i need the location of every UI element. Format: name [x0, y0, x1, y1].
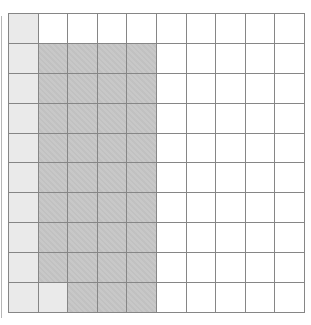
- grid-cell-r1c2: [39, 14, 69, 44]
- grid-cell-r10c4: [98, 283, 128, 313]
- grid-cell-r6c3: [68, 163, 98, 193]
- grid-cell-r5c7: [187, 134, 217, 164]
- grid-cell-r2c4: [98, 44, 128, 74]
- grid-cell-r8c9: [246, 223, 276, 253]
- grid-cell-r10c10: [275, 283, 305, 313]
- grid-cell-r7c10: [275, 193, 305, 223]
- grid-cell-r2c10: [275, 44, 305, 74]
- grid-cell-r6c7: [187, 163, 217, 193]
- grid-cell-r5c8: [216, 134, 246, 164]
- grid-cell-r8c8: [216, 223, 246, 253]
- grid-cell-r10c2: [39, 283, 69, 313]
- grid-cell-r9c9: [246, 253, 276, 283]
- hundredths-grid: [8, 13, 305, 313]
- grid-cell-r2c2: [39, 44, 69, 74]
- grid-cell-r5c4: [98, 134, 128, 164]
- grid-cell-r10c6: [157, 283, 187, 313]
- grid-cell-r5c6: [157, 134, 187, 164]
- grid-cell-r6c10: [275, 163, 305, 193]
- grid-cell-r1c7: [187, 14, 217, 44]
- grid-cell-r2c9: [246, 44, 276, 74]
- grid-cell-r4c9: [246, 104, 276, 134]
- grid-cell-r1c9: [246, 14, 276, 44]
- grid-cell-r8c2: [39, 223, 69, 253]
- grid-cell-r1c8: [216, 14, 246, 44]
- grid-cell-r9c5: [127, 253, 157, 283]
- grid-cell-r7c8: [216, 193, 246, 223]
- page-edge-artifact-line: [1, 16, 2, 318]
- grid-cell-r6c1: [9, 163, 39, 193]
- grid-cell-r8c7: [187, 223, 217, 253]
- grid-cell-r2c3: [68, 44, 98, 74]
- grid-cell-r3c6: [157, 74, 187, 104]
- grid-cell-r6c2: [39, 163, 69, 193]
- grid-cell-r8c5: [127, 223, 157, 253]
- grid-cell-r5c1: [9, 134, 39, 164]
- grid-cell-r8c1: [9, 223, 39, 253]
- grid-cell-r10c7: [187, 283, 217, 313]
- grid-cell-r1c5: [127, 14, 157, 44]
- grid-cell-r7c6: [157, 193, 187, 223]
- grid-cell-r7c4: [98, 193, 128, 223]
- grid-cell-r7c9: [246, 193, 276, 223]
- grid-cell-r5c3: [68, 134, 98, 164]
- grid-cell-r6c8: [216, 163, 246, 193]
- grid-cell-r9c10: [275, 253, 305, 283]
- grid-cell-r5c2: [39, 134, 69, 164]
- grid-cell-r4c2: [39, 104, 69, 134]
- grid-cell-r10c8: [216, 283, 246, 313]
- grid-cell-r3c3: [68, 74, 98, 104]
- grid-cell-r8c3: [68, 223, 98, 253]
- grid-cell-r1c3: [68, 14, 98, 44]
- grid-cell-r10c1: [9, 283, 39, 313]
- grid-cell-r3c2: [39, 74, 69, 104]
- grid-cell-r2c1: [9, 44, 39, 74]
- page: [0, 0, 311, 325]
- grid-cell-r8c10: [275, 223, 305, 253]
- grid-cell-r4c8: [216, 104, 246, 134]
- grid-cell-r9c7: [187, 253, 217, 283]
- grid-cell-r9c3: [68, 253, 98, 283]
- grid-cell-r4c4: [98, 104, 128, 134]
- grid-cell-r10c9: [246, 283, 276, 313]
- grid-cell-r4c6: [157, 104, 187, 134]
- grid-cell-r4c7: [187, 104, 217, 134]
- grid-cell-r7c7: [187, 193, 217, 223]
- grid-cell-r8c6: [157, 223, 187, 253]
- grid-cell-r4c1: [9, 104, 39, 134]
- grid-cell-r7c3: [68, 193, 98, 223]
- grid-cell-r6c9: [246, 163, 276, 193]
- grid-cell-r3c4: [98, 74, 128, 104]
- grid-cell-r5c9: [246, 134, 276, 164]
- grid-cell-r3c5: [127, 74, 157, 104]
- grid-cell-r3c1: [9, 74, 39, 104]
- grid-cell-r2c5: [127, 44, 157, 74]
- grid-cell-r9c6: [157, 253, 187, 283]
- grid-cell-r7c1: [9, 193, 39, 223]
- grid-cell-r6c6: [157, 163, 187, 193]
- grid-cell-r3c9: [246, 74, 276, 104]
- grid-cell-r3c7: [187, 74, 217, 104]
- grid-cell-r10c5: [127, 283, 157, 313]
- grid-cell-r3c10: [275, 74, 305, 104]
- grid-cell-r1c6: [157, 14, 187, 44]
- grid-cell-r2c6: [157, 44, 187, 74]
- grid-cell-r8c4: [98, 223, 128, 253]
- grid-cell-r1c1: [9, 14, 39, 44]
- grid-cell-r4c3: [68, 104, 98, 134]
- grid-cell-r2c8: [216, 44, 246, 74]
- grid-cell-r9c4: [98, 253, 128, 283]
- grid-cell-r7c2: [39, 193, 69, 223]
- grid-cell-r1c4: [98, 14, 128, 44]
- grid-cell-r4c10: [275, 104, 305, 134]
- grid-cell-r5c10: [275, 134, 305, 164]
- grid-cell-r9c1: [9, 253, 39, 283]
- grid-cell-r9c8: [216, 253, 246, 283]
- grid-cell-r2c7: [187, 44, 217, 74]
- grid-cell-r6c5: [127, 163, 157, 193]
- grid-cell-r9c2: [39, 253, 69, 283]
- grid-cell-r5c5: [127, 134, 157, 164]
- grid-cell-r6c4: [98, 163, 128, 193]
- grid-cell-r10c3: [68, 283, 98, 313]
- grid-cell-r7c5: [127, 193, 157, 223]
